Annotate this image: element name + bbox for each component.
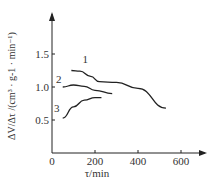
series-2-label: 2 [56, 73, 62, 85]
x-axis-label: τ/min [85, 167, 110, 179]
series-1-line [71, 71, 166, 109]
x-tick-label: 200 [87, 155, 104, 167]
series-3-line [63, 98, 102, 118]
y-tick-label: 1.5 [35, 48, 49, 60]
y-tick-label: 1.0 [35, 81, 49, 93]
x-tick-label: 600 [173, 155, 190, 167]
y-tick-label: 0.5 [35, 114, 49, 126]
x-axis-arrow-icon [199, 150, 207, 156]
x-tick-label: 400 [130, 155, 147, 167]
series-3-label: 3 [54, 102, 60, 114]
series-2-line [63, 85, 112, 94]
y-axis-arrow-icon [49, 12, 55, 21]
x-tick-label: 0 [49, 155, 55, 167]
svg-text:ΔV/Δτ /(cm³ · g-1 · min⁻¹): ΔV/Δτ /(cm³ · g-1 · min⁻¹) [6, 32, 18, 140]
series-1-label: 1 [83, 53, 89, 65]
chart: 02004006000.51.01.5τ/minΔV/Δτ /(cm³ · g-… [0, 0, 224, 187]
plot-area: 02004006000.51.01.5τ/minΔV/Δτ /(cm³ · g-… [0, 0, 224, 187]
y-axis-label: ΔV/Δτ /(cm³ · g-1 · min⁻¹) [6, 32, 18, 140]
